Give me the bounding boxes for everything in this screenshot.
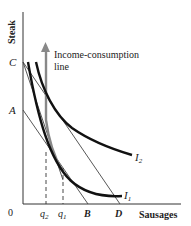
q1-label: q1 (58, 208, 67, 221)
I2-label: I2 (134, 151, 143, 165)
point-C-label: C (9, 56, 17, 68)
icc-annotation-line2: line (54, 61, 70, 72)
y-axis-label: Steak (6, 20, 17, 44)
origin-label: 0 (8, 207, 13, 218)
point-D-label: D (114, 208, 122, 219)
q2-label: q2 (40, 208, 49, 221)
point-B-label: B (83, 208, 91, 219)
x-axis-label: Sausages (139, 209, 177, 220)
income-consumption-diagram: Steak Sausages 0 C A q2 q1 B D I2 I1 Inc… (0, 0, 191, 226)
point-A-label: A (8, 104, 16, 116)
icc-annotation-line1: Income-consumption (54, 49, 139, 60)
arrow-up-icon (41, 42, 50, 52)
I1-label: I1 (123, 189, 131, 203)
